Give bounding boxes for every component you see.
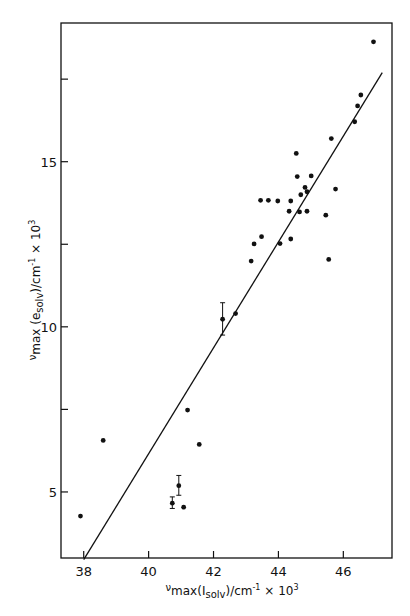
x-axis-label: νmax(Isolv)/cm-1 × 103 <box>165 582 298 600</box>
y-tick-label: 5 <box>49 485 57 500</box>
data-point <box>197 442 202 447</box>
data-points <box>78 39 376 518</box>
data-point <box>185 408 190 413</box>
data-point <box>305 209 310 214</box>
data-point <box>287 209 292 214</box>
data-point <box>181 505 186 510</box>
data-point <box>249 259 254 264</box>
data-point <box>266 198 271 203</box>
data-point <box>275 199 280 204</box>
data-point <box>355 103 360 108</box>
data-point <box>170 501 175 506</box>
plot-frame <box>61 23 392 558</box>
data-point <box>259 234 264 239</box>
x-tick-label: 46 <box>335 564 352 579</box>
x-axis: 3840424446 <box>75 551 351 579</box>
data-point <box>305 189 310 194</box>
data-point <box>297 210 302 215</box>
data-point <box>358 93 363 98</box>
x-tick-label: 38 <box>75 564 92 579</box>
y-axis: 51015 <box>40 79 68 500</box>
data-point <box>294 151 299 156</box>
fit-line <box>84 73 383 560</box>
y-tick-label: 15 <box>40 155 57 170</box>
data-point <box>258 198 263 203</box>
data-point <box>288 199 293 204</box>
x-tick-label: 44 <box>270 564 287 579</box>
data-point <box>303 185 308 190</box>
data-point <box>352 119 357 124</box>
data-point <box>101 438 106 443</box>
data-point <box>295 174 300 179</box>
data-point <box>329 136 334 141</box>
y-axis-label: νmax (esolv)/cm-1 × 103 <box>27 220 45 361</box>
data-point <box>371 39 376 44</box>
data-point <box>326 257 331 262</box>
data-point <box>78 514 83 519</box>
x-tick-label: 42 <box>205 564 222 579</box>
data-point <box>252 242 257 247</box>
data-point <box>176 483 181 488</box>
data-point <box>309 174 314 179</box>
data-point <box>298 192 303 197</box>
data-point <box>323 213 328 218</box>
scatter-chart: 3840424446 51015 νmax(Isolv)/cm-1 × 103 … <box>0 0 410 616</box>
data-point <box>233 311 238 316</box>
data-point <box>333 187 338 192</box>
data-point <box>278 241 283 246</box>
data-point <box>288 237 293 242</box>
x-tick-label: 40 <box>140 564 157 579</box>
data-point <box>220 317 225 322</box>
